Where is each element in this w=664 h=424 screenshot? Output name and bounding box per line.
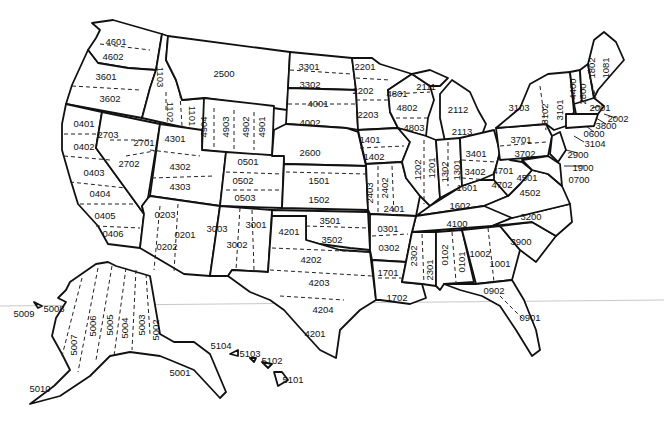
- zone-label-3701: 3701: [510, 134, 531, 145]
- zone-label-4902: 4902: [240, 116, 251, 137]
- zone-label-3702: 3702: [514, 148, 535, 159]
- zone-label-1002: 1002: [469, 248, 490, 259]
- zone-label-3602: 3602: [99, 93, 120, 104]
- zone-label-4204: 4204: [312, 304, 333, 315]
- zone-label-4002: 4002: [299, 117, 320, 128]
- zone-label-1602: 1602: [449, 200, 470, 211]
- zone-label-4901: 4901: [256, 116, 267, 137]
- zone-label-0901: 0901: [519, 312, 540, 323]
- zone-label-5006: 5006: [87, 315, 98, 336]
- state-new-jersey: [550, 132, 566, 162]
- zone-label-1601: 1601: [456, 182, 477, 193]
- zone-label-4100: 4100: [446, 218, 467, 229]
- zone-label-3003: 3003: [206, 223, 227, 234]
- zone-label-5104: 5104: [210, 340, 231, 351]
- zone-label-4501: 4501: [516, 172, 537, 183]
- zone-label-3102: 3102: [539, 103, 550, 124]
- zone-label-5101: 5101: [282, 374, 303, 385]
- zone-label-3103: 3103: [508, 102, 529, 113]
- zone-label-4303: 4303: [169, 181, 190, 192]
- zone-label-0403: 0403: [83, 167, 104, 178]
- zone-label-2001: 2001: [589, 102, 610, 113]
- zone-label-4701: 4701: [492, 165, 513, 176]
- state-south-dakota: [286, 88, 358, 130]
- zone-label-2203: 2203: [357, 109, 378, 120]
- zone-label-2402: 2402: [379, 177, 390, 198]
- zone-label-2500: 2500: [213, 68, 234, 79]
- zone-label-0503: 0503: [234, 192, 255, 203]
- zone-label-3601: 3601: [95, 71, 116, 82]
- zone-label-3101: 3101: [554, 99, 565, 120]
- island-kauai: [230, 350, 238, 356]
- zone-label-5008: 5008: [43, 303, 64, 314]
- zone-label-1202: 1202: [412, 159, 423, 180]
- zone-label-2201: 2201: [354, 61, 375, 72]
- zone-label-3502: 3502: [321, 234, 342, 245]
- zone-label-4702: 4702: [491, 179, 512, 190]
- zone-label-3001: 3001: [245, 219, 266, 230]
- zone-label-2600: 2600: [299, 147, 320, 158]
- zone-label-5005: 5005: [104, 314, 115, 335]
- zone-label-4803: 4803: [403, 122, 424, 133]
- state-connecticut-ri: [566, 114, 598, 128]
- zone-label-4201: 4201: [278, 226, 299, 237]
- zone-label-2703: 2703: [97, 129, 118, 140]
- zone-label-3002: 3002: [226, 239, 247, 250]
- zone-label-4301: 4301: [164, 133, 185, 144]
- zone-label-0401: 0401: [73, 118, 94, 129]
- zone-label-1501: 1501: [308, 175, 329, 186]
- zone-label-3900: 3900: [510, 236, 531, 247]
- zone-label-0203: 0203: [154, 209, 175, 220]
- zone-label-0302: 0302: [378, 242, 399, 253]
- zone-label-0301: 0301: [377, 223, 398, 234]
- zone-label-2403: 2403: [364, 182, 375, 203]
- zone-label-2113: 2113: [452, 126, 472, 137]
- state-nebraska: [272, 124, 366, 166]
- zone-label-2701: 2701: [133, 137, 154, 148]
- zone-label-3104: 3104: [584, 138, 605, 149]
- zone-label-4903: 4903: [220, 116, 231, 137]
- zone-label-2800: 2800: [577, 83, 588, 104]
- zone-label-0502: 0502: [232, 175, 253, 186]
- zone-label-2401: 2401: [383, 203, 404, 214]
- zone-label-4201: 4201: [304, 328, 325, 339]
- zone-label-1001: 1001: [489, 258, 510, 269]
- zone-label-3402: 3402: [464, 166, 485, 177]
- zone-label-0102: 0102: [439, 244, 450, 265]
- zone-label-5004: 5004: [119, 317, 130, 338]
- zone-label-2111: 2111: [416, 81, 436, 92]
- zone-label-3501: 3501: [319, 215, 340, 226]
- zone-label-0501: 0501: [237, 156, 258, 167]
- zone-label-4203: 4203: [308, 277, 329, 288]
- zone-label-2900: 2900: [567, 149, 588, 160]
- zone-label-1301: 1301: [451, 159, 462, 180]
- zone-label-0101: 0101: [456, 251, 467, 272]
- zone-label-1702: 1702: [386, 292, 407, 303]
- zone-label-4502: 4502: [519, 187, 540, 198]
- zone-label-0202: 0202: [156, 241, 177, 252]
- zone-label-0201: 0201: [174, 229, 195, 240]
- zone-label-3301: 3301: [298, 61, 319, 72]
- zone-label-1103: 1103: [155, 67, 166, 87]
- zone-label-3401: 3401: [465, 148, 486, 159]
- zone-label-5009: 5009: [13, 308, 34, 319]
- state-plane-zone-map: 4601460236013602110311021101250004010402…: [0, 0, 664, 424]
- zone-label-2202: 2202: [352, 85, 373, 96]
- zone-label-4001: 4001: [307, 98, 328, 109]
- zone-label-1081: 1081: [600, 57, 611, 78]
- zone-label-5007: 5007: [68, 334, 79, 355]
- zone-label-2702: 2702: [118, 158, 139, 169]
- zone-label-1302: 1302: [439, 161, 450, 182]
- zone-label-3200: 3200: [520, 211, 541, 222]
- zone-label-4904: 4904: [198, 116, 209, 137]
- zone-label-3302: 3302: [299, 79, 320, 90]
- zone-label-0700: 0700: [568, 174, 589, 185]
- island-st-lawrence: [34, 302, 42, 308]
- zone-label-1102: 1102: [165, 102, 176, 122]
- zone-label-5003: 5003: [136, 314, 147, 335]
- zone-label-4801: 4801: [386, 88, 407, 99]
- zone-label-5002: 5002: [150, 319, 161, 340]
- zone-label-1402: 1402: [363, 151, 384, 162]
- zone-label-1701: 1701: [377, 267, 398, 278]
- zone-label-1802: 1802: [586, 57, 597, 78]
